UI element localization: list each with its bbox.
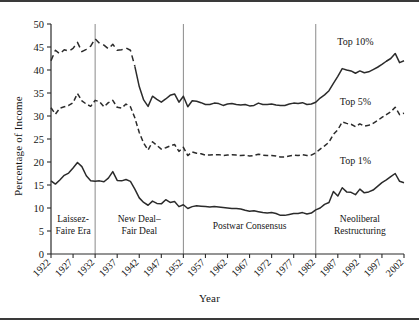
annotation-top-5-: Top 5% <box>340 96 371 107</box>
y-tick-label: 30 <box>34 111 45 122</box>
x-tick-label: 1997 <box>361 257 383 279</box>
y-tick-label: 35 <box>34 88 45 99</box>
y-tick-label: 45 <box>34 42 45 53</box>
x-tick-label: 1987 <box>317 257 339 279</box>
series-annotation-group: Top 10%Top 5%Top 1% <box>337 36 373 167</box>
era-label-line1: Postwar Consensus <box>213 221 287 231</box>
x-tick-label: 1972 <box>251 257 273 279</box>
x-tick-label: 2002 <box>383 257 405 279</box>
annotation-top-10-: Top 10% <box>337 36 373 47</box>
y-axis-title: Percentage of Income <box>12 71 24 221</box>
era-label-line1: Laissez- <box>57 214 89 224</box>
y-tick-label: 5 <box>39 226 44 237</box>
y-tick-label: 20 <box>34 157 45 168</box>
y-tick-label: 10 <box>34 203 45 214</box>
era-label-line2: Faire Era <box>56 226 92 236</box>
era-label-line1: New Deal– <box>118 214 161 224</box>
era-label-line2: Restructuring <box>334 226 386 236</box>
x-axis-title: Year <box>0 292 419 304</box>
x-tick-label: 1952 <box>163 257 185 279</box>
x-tick-label: 1962 <box>207 257 229 279</box>
x-tick-label: 1967 <box>229 257 251 279</box>
y-tick-label: 40 <box>34 65 45 76</box>
income-share-line-chart: 05101520253035404550 1922192719321937194… <box>0 0 419 320</box>
x-tick-label: 1937 <box>97 257 119 279</box>
figure-container: 05101520253035404550 1922192719321937194… <box>0 0 419 320</box>
x-tick-label: 1982 <box>295 257 317 279</box>
era-label-line2: Fair Deal <box>121 226 157 236</box>
series-group <box>51 39 404 216</box>
era-label-group: Laissez-Faire EraNew Deal–Fair DealPostw… <box>56 214 386 236</box>
y-tick-label: 25 <box>34 134 45 145</box>
x-tick-label: 1957 <box>185 257 207 279</box>
x-tick-label: 1992 <box>339 257 361 279</box>
x-tick-label: 1932 <box>75 257 97 279</box>
x-tick-label: 1922 <box>30 257 52 279</box>
y-tick-label-group: 05101520253035404550 <box>34 19 52 260</box>
era-label-line1: Neoliberal <box>340 214 380 224</box>
x-tick-label: 1977 <box>273 257 295 279</box>
y-tick-label: 15 <box>34 180 45 191</box>
x-tick-label: 1947 <box>141 257 163 279</box>
x-tick-label-group: 1922192719321937194219471952195719621967… <box>30 254 405 279</box>
x-tick-label: 1927 <box>53 257 75 279</box>
series-path-top-1- <box>51 162 404 215</box>
annotation-top-1-: Top 1% <box>340 155 371 166</box>
x-tick-label: 1942 <box>119 257 141 279</box>
series-path-top-10--early <box>51 39 135 67</box>
y-tick-label: 50 <box>34 19 45 30</box>
